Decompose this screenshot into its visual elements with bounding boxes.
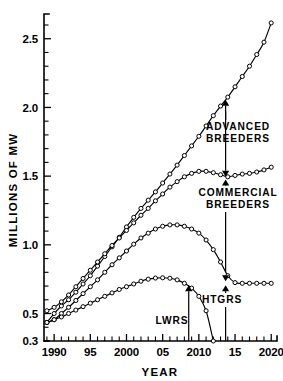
x-axis-title: YEAR	[142, 366, 179, 378]
series-lwrs	[45, 276, 216, 343]
y-axis-tick-labels: 0.51.01.52.02.50.3	[23, 33, 39, 347]
data-point	[81, 282, 85, 286]
data-point	[67, 311, 71, 315]
data-point	[247, 281, 251, 285]
data-point	[74, 285, 78, 289]
axes-group	[44, 14, 277, 341]
data-point	[190, 227, 194, 231]
data-point	[117, 236, 121, 240]
data-point	[74, 290, 78, 294]
data-point	[197, 294, 201, 298]
data-point	[59, 304, 63, 308]
data-point	[255, 281, 259, 285]
y-axis-min-label: 0.3	[23, 335, 38, 347]
data-point	[269, 21, 273, 25]
data-point	[175, 163, 179, 167]
y-axis-line	[44, 14, 49, 341]
data-point	[255, 170, 259, 174]
data-point	[67, 305, 71, 309]
x-tick-label: 95	[84, 346, 97, 358]
data-point	[67, 298, 71, 302]
data-point	[96, 298, 100, 302]
x-tick-label: 2000	[114, 346, 139, 358]
annotation-htgrs: HTGRS	[202, 275, 242, 341]
data-point	[110, 263, 114, 267]
annotation-label-line2: BREEDERS	[206, 199, 270, 210]
data-point	[139, 279, 143, 283]
data-point	[153, 227, 157, 231]
data-point	[146, 198, 150, 202]
data-point	[197, 169, 201, 173]
data-point	[67, 293, 71, 297]
projection-line-chart: 0.51.01.52.02.50.3 199095200005201015202…	[0, 0, 283, 381]
x-tick-label: 15	[229, 346, 242, 358]
data-point	[110, 243, 114, 247]
data-point	[96, 278, 100, 282]
annotation-label-line1: COMMERCIAL	[198, 187, 277, 198]
data-point	[117, 256, 121, 260]
data-point	[211, 248, 215, 252]
data-point	[219, 173, 223, 177]
data-point	[240, 74, 244, 78]
y-axis-title: MILLIONS OF MW	[7, 133, 19, 248]
annotation-group: ADVANCEDBREEDERSCOMMERCIALBREEDERSHTGRSL…	[155, 100, 277, 341]
data-point	[168, 276, 172, 280]
annotation-advanced: ADVANCEDBREEDERS	[206, 100, 270, 144]
data-point	[52, 305, 56, 309]
x-axis-tick-labels: 1990952000052010152020	[42, 346, 283, 358]
annotation-label-line1: LWRS	[155, 315, 188, 326]
data-point	[211, 114, 215, 118]
y-tick-label: 0.5	[23, 308, 39, 320]
data-point	[161, 276, 165, 280]
data-point	[132, 215, 136, 219]
data-point	[247, 171, 251, 175]
arrow-head	[222, 180, 229, 186]
chart-figure: 0.51.01.52.02.50.3 199095200005201015202…	[0, 0, 283, 381]
data-point	[153, 199, 157, 203]
data-point	[182, 153, 186, 157]
data-point	[262, 281, 266, 285]
data-point	[124, 285, 128, 289]
x-tick-label: 2020	[259, 346, 283, 358]
data-point	[124, 228, 128, 232]
data-point	[168, 185, 172, 189]
data-point	[117, 287, 121, 291]
data-point	[269, 165, 273, 169]
data-point	[240, 172, 244, 176]
data-point	[247, 64, 251, 68]
data-point	[81, 276, 85, 280]
data-point	[204, 169, 208, 173]
data-point	[146, 231, 150, 235]
annotation-lwrs: LWRS	[155, 285, 192, 341]
data-point	[262, 168, 266, 172]
data-point	[110, 291, 114, 295]
annotation-label-line1: HTGRS	[202, 294, 242, 305]
arrow-head	[222, 285, 229, 291]
annotation-label-line1: ADVANCED	[206, 121, 270, 132]
data-point	[81, 292, 85, 296]
y-tick-label: 1.0	[23, 239, 38, 251]
data-point	[153, 190, 157, 194]
data-point	[103, 270, 107, 274]
data-point	[269, 281, 273, 285]
x-axis-ticks	[47, 334, 271, 341]
data-point	[161, 224, 165, 228]
data-point	[45, 320, 49, 324]
data-point	[182, 281, 186, 285]
data-point	[88, 274, 92, 278]
data-point	[74, 298, 78, 302]
data-point	[219, 260, 223, 264]
data-point	[103, 294, 107, 298]
data-point	[88, 285, 92, 289]
data-point	[139, 206, 143, 210]
data-point	[161, 192, 165, 196]
data-point	[96, 260, 100, 264]
data-point	[103, 252, 107, 256]
data-point	[211, 339, 215, 343]
y-tick-label: 2.5	[23, 33, 39, 45]
x-tick-label: 1990	[42, 346, 67, 358]
y-axis-ticks	[44, 25, 51, 341]
data-point	[132, 282, 136, 286]
data-point	[262, 40, 266, 44]
data-point	[182, 175, 186, 179]
